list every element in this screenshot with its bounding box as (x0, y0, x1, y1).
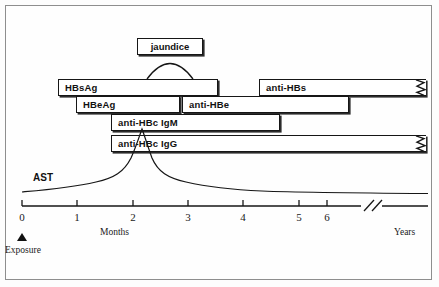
bar-anti-hbs-label: anti-HBs (260, 83, 306, 93)
bar-anti-hbc-igg: anti-HBc IgG (111, 135, 426, 152)
axis-break-zigzag-icon (415, 135, 427, 152)
bar-hbsag: HBsAg (58, 79, 218, 96)
bar-hbeag: HBeAg (76, 96, 180, 113)
jaundice-callout-box: jaundice (137, 38, 203, 55)
x-tick-label-3: 3 (185, 212, 191, 223)
bar-anti-hbc-igm-label: anti-HBc IgM (112, 118, 178, 128)
x-tick-label-0: 0 (19, 212, 25, 223)
exposure-label: Exposure (5, 246, 41, 256)
jaundice-label: jaundice (151, 42, 190, 52)
bar-anti-hbs: anti-HBs (259, 79, 426, 96)
bar-anti-hbc-igm: anti-HBc IgM (111, 114, 280, 131)
x-axis-caption-months: Months (100, 228, 129, 238)
x-tick-label-1: 1 (74, 212, 80, 223)
bar-anti-hbe: anti-HBe (182, 96, 349, 113)
bar-anti-hbe-label: anti-HBe (183, 100, 229, 110)
x-axis-caption-years: Years (394, 228, 415, 238)
hepatitis-b-serology-figure: jaundice HBsAg anti-HBs HBeAg anti-HBe a… (0, 0, 439, 287)
axis-break-zigzag-icon (415, 79, 427, 96)
x-tick-label-6: 6 (324, 212, 330, 223)
x-tick-label-5: 5 (296, 212, 302, 223)
ast-series-label: AST (33, 173, 53, 183)
bar-hbeag-label: HBeAg (77, 100, 115, 110)
x-tick-label-4: 4 (240, 212, 246, 223)
bar-hbsag-label: HBsAg (59, 83, 97, 93)
bar-anti-hbc-igg-label: anti-HBc IgG (112, 139, 177, 149)
x-tick-label-2: 2 (130, 212, 136, 223)
exposure-triangle-icon (17, 233, 27, 241)
